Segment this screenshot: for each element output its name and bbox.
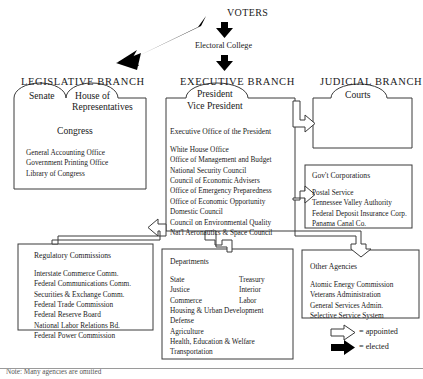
- list-item: Atomic Energy Commission: [310, 280, 393, 290]
- list-item: Housing & Urban Development: [170, 306, 263, 316]
- senate-label: Senate: [29, 91, 55, 102]
- voters-to-electoral-arrow: [216, 22, 233, 38]
- legend-elected-arrow-icon: [331, 340, 355, 355]
- list-item: Office of Economic Opportunity: [170, 197, 272, 207]
- diagram-canvas: VOTERS Electoral College LEGISLATIVE BRA…: [0, 0, 423, 379]
- list-item: Domestic Council: [170, 207, 272, 217]
- list-item: Federal Trade Commission: [34, 300, 131, 310]
- departments-col2: Treasury Interior Labor: [239, 275, 265, 306]
- list-item: Treasury: [239, 275, 265, 285]
- list-item: Panama Canal Co.: [312, 219, 407, 229]
- list-item: Library of Congress: [26, 169, 108, 179]
- list-item: Defense: [170, 316, 263, 326]
- list-item: Veterans Administration: [310, 290, 393, 300]
- footer-note-strip: Note: Many agencies are omitted: [0, 369, 423, 379]
- list-item: Securities & Exchange Comm.: [34, 290, 131, 300]
- list-item: Council on Environmental Quality: [170, 218, 272, 228]
- regulatory-commissions-list: Interstate Commerce Comm. Federal Commun…: [34, 269, 131, 342]
- departments-heading: Departments: [170, 258, 209, 267]
- list-item: Government Printing Office: [26, 158, 108, 168]
- list-item: Federal Reserve Board: [34, 310, 131, 320]
- list-item: Council of Economic Advisers: [170, 176, 272, 186]
- list-item: Federal Power Commission: [34, 331, 131, 341]
- list-item: Federal Communications Comm.: [34, 279, 131, 289]
- legend-appointed-arrow-icon: [331, 325, 355, 340]
- departments-col1: State Justice Commerce: [170, 275, 202, 306]
- list-item: Health, Education & Welfare: [170, 337, 263, 347]
- list-item: Commerce: [170, 296, 202, 306]
- list-item: Interior: [239, 285, 265, 295]
- list-item: Justice: [170, 285, 202, 295]
- list-item: Labor: [239, 296, 265, 306]
- legend-appointed-label: = appointed: [359, 327, 398, 336]
- courts-label: Courts: [345, 90, 371, 101]
- house-label-line2: Representatives: [72, 102, 133, 113]
- legend-elected-label: = elected: [359, 342, 389, 351]
- legislative-agency-list: General Accounting Office Government Pri…: [26, 148, 108, 179]
- executive-to-judicial-connector: [293, 101, 315, 132]
- list-item: Office of Emergency Preparedness: [170, 186, 272, 196]
- legend-glyphs: [331, 325, 355, 355]
- vice-president-label: Vice President: [187, 101, 243, 112]
- regulatory-commissions-heading: Regulatory Commissions: [34, 252, 111, 261]
- list-item: State: [170, 275, 202, 285]
- electoral-to-executive-arrow: [216, 55, 233, 71]
- list-item: Interstate Commerce Comm.: [34, 269, 131, 279]
- judicial-branch-title: JUDICIAL BRANCH: [320, 76, 422, 88]
- executive-to-regulatory-connector: [52, 219, 166, 244]
- electoral-college-label: Electoral College: [195, 41, 252, 50]
- executive-office-list: White House Office Office of Management …: [170, 145, 272, 238]
- footer-note: Note: Many agencies are omitted: [6, 369, 101, 376]
- executive-branch-title: EXECUTIVE BRANCH: [180, 76, 295, 88]
- other-agencies-heading: Other Agencies: [310, 263, 357, 272]
- list-item: Federal Deposit Insurance Corp.: [312, 209, 407, 219]
- departments-wide-list: Housing & Urban Development Defense Agri…: [170, 306, 263, 358]
- list-item: Postal Service: [312, 188, 407, 198]
- list-item: Tennessee Valley Authority: [312, 198, 407, 208]
- congress-heading: Congress: [57, 126, 93, 137]
- list-item: Agriculture: [170, 327, 263, 337]
- legislative-branch-title: LEGISLATIVE BRANCH: [21, 76, 145, 88]
- president-label: President: [197, 89, 233, 100]
- list-item: Nat'l Aeronautics & Space Council: [170, 228, 272, 238]
- list-item: National Labor Relations Bd.: [34, 321, 131, 331]
- executive-office-heading: Executive Office of the President: [170, 128, 271, 137]
- list-item: White House Office: [170, 145, 272, 155]
- list-item: Transportation: [170, 347, 263, 357]
- gov-corporations-list: Postal Service Tennessee Valley Authorit…: [312, 188, 407, 229]
- list-item: General Services Admin.: [310, 301, 393, 311]
- list-item: General Accounting Office: [26, 148, 108, 158]
- list-item: National Security Council: [170, 166, 272, 176]
- list-item: Selective Service System: [310, 311, 393, 321]
- other-agencies-list: Atomic Energy Commission Veterans Admini…: [310, 280, 393, 321]
- gov-corporations-heading: Gov't Corporations: [312, 172, 370, 181]
- list-item: Office of Management and Budget: [170, 155, 272, 165]
- voters-label: VOTERS: [227, 7, 268, 18]
